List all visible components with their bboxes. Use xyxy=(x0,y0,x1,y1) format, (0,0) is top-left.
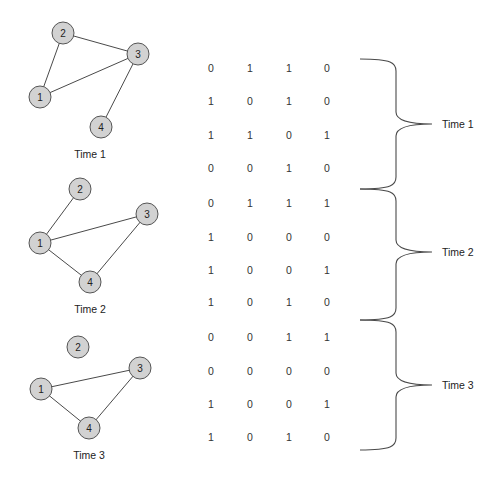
graph-panel-3: 1234Time 3 xyxy=(30,336,151,461)
matrix-row: 1010 xyxy=(208,95,330,107)
node-1: 1 xyxy=(29,86,51,108)
node-4: 4 xyxy=(79,271,101,293)
matrix-cell: 0 xyxy=(324,62,330,74)
matrix-cell: 0 xyxy=(324,296,330,308)
matrix-cell: 1 xyxy=(247,129,253,141)
edge-1-3 xyxy=(40,54,138,97)
matrix-cell: 0 xyxy=(208,62,214,74)
matrix-row: 1010 xyxy=(208,296,330,308)
matrix-cell: 0 xyxy=(286,398,292,410)
matrix-cell: 0 xyxy=(247,431,253,443)
node-4: 4 xyxy=(78,417,100,439)
node-label: 3 xyxy=(144,209,150,220)
matrix-row: 1000 xyxy=(208,231,330,243)
node-label: 2 xyxy=(75,342,81,353)
brace-label: Time 2 xyxy=(442,246,474,258)
matrix-cell: 0 xyxy=(247,398,253,410)
matrix-cell: 0 xyxy=(324,95,330,107)
node-label: 3 xyxy=(135,49,141,60)
matrix-cell: 1 xyxy=(208,264,214,276)
matrix-cell: 1 xyxy=(286,197,292,209)
edge-3-4 xyxy=(90,214,147,282)
matrix-cell: 1 xyxy=(286,62,292,74)
matrix-row: 0010 xyxy=(208,162,330,174)
graph-caption: Time 3 xyxy=(73,449,105,461)
matrix-cell: 1 xyxy=(208,431,214,443)
matrix-cell: 0 xyxy=(208,162,214,174)
matrix-cell: 0 xyxy=(324,365,330,377)
matrix-cell: 1 xyxy=(324,331,330,343)
curly-brace-icon xyxy=(360,59,432,189)
matrix-row: 0000 xyxy=(208,365,330,377)
node-label: 2 xyxy=(60,28,66,39)
node-2: 2 xyxy=(69,178,91,200)
matrix-row: 1010 xyxy=(208,431,330,443)
matrix-cell: 0 xyxy=(247,365,253,377)
node-label: 1 xyxy=(38,384,44,395)
matrix-cell: 0 xyxy=(247,95,253,107)
matrix-cell: 1 xyxy=(286,296,292,308)
graph-caption: Time 2 xyxy=(74,303,106,315)
temporal-network-diagram: 1234Time 11234Time 21234Time 3 011010101… xyxy=(0,0,500,477)
matrix-cell: 0 xyxy=(208,365,214,377)
matrix-row: 1101 xyxy=(208,129,330,141)
matrix-cell: 1 xyxy=(247,62,253,74)
matrix-cell: 1 xyxy=(208,398,214,410)
edge-2-3 xyxy=(63,33,138,54)
curly-brace-icon xyxy=(360,189,432,320)
node-3: 3 xyxy=(127,43,149,65)
matrix-cell: 0 xyxy=(247,296,253,308)
node-label: 4 xyxy=(86,423,92,434)
brace-group-1: Time 1 xyxy=(360,59,474,189)
matrix-row: 1001 xyxy=(208,264,330,276)
matrix-cell: 1 xyxy=(324,398,330,410)
graph-panel-1: 1234Time 1 xyxy=(29,22,149,160)
matrix-cell: 0 xyxy=(324,431,330,443)
matrix-cell: 1 xyxy=(286,431,292,443)
matrix-row: 1001 xyxy=(208,398,330,410)
graph-panel-2: 1234Time 2 xyxy=(29,178,158,315)
matrix-row: 0011 xyxy=(208,331,330,343)
brace-group-3: Time 3 xyxy=(360,320,474,450)
node-4: 4 xyxy=(90,116,112,138)
matrix-cell: 0 xyxy=(208,197,214,209)
matrix-cell: 0 xyxy=(247,231,253,243)
matrix-cell: 0 xyxy=(324,231,330,243)
matrix-cell: 1 xyxy=(286,95,292,107)
brace-group-2: Time 2 xyxy=(360,189,474,320)
matrix-cell: 1 xyxy=(324,129,330,141)
node-1: 1 xyxy=(30,378,52,400)
matrix-row: 0111 xyxy=(208,197,330,209)
matrix-cell: 0 xyxy=(247,162,253,174)
matrix-cell: 1 xyxy=(286,331,292,343)
matrix-cell: 1 xyxy=(208,95,214,107)
matrix-cell: 0 xyxy=(247,331,253,343)
matrix-cell: 1 xyxy=(324,197,330,209)
node-label: 4 xyxy=(87,277,93,288)
node-3: 3 xyxy=(136,203,158,225)
node-label: 4 xyxy=(98,122,104,133)
matrix-cell: 0 xyxy=(286,264,292,276)
graph-caption: Time 1 xyxy=(74,148,106,160)
node-2: 2 xyxy=(52,22,74,44)
matrix-cell: 1 xyxy=(324,264,330,276)
node-1: 1 xyxy=(29,232,51,254)
matrix-cell: 0 xyxy=(324,162,330,174)
matrix-cell: 1 xyxy=(247,197,253,209)
node-3: 3 xyxy=(129,357,151,379)
matrix-cell: 1 xyxy=(208,296,214,308)
node-label: 2 xyxy=(77,184,83,195)
graph-panels: 1234Time 11234Time 21234Time 3 xyxy=(29,22,158,461)
matrix-row: 0110 xyxy=(208,62,330,74)
matrix-cell: 1 xyxy=(208,231,214,243)
node-label: 1 xyxy=(37,238,43,249)
matrix-cell: 1 xyxy=(208,129,214,141)
node-2: 2 xyxy=(67,336,89,358)
edge-1-3 xyxy=(40,214,147,243)
brace-label: Time 1 xyxy=(442,118,474,130)
brace-label: Time 3 xyxy=(442,379,474,391)
matrix-cell: 0 xyxy=(247,264,253,276)
adjacency-matrix: 0110101011010010011110001001101000110000… xyxy=(208,62,330,443)
curly-brace-icon xyxy=(360,320,432,450)
node-label: 3 xyxy=(137,363,143,374)
